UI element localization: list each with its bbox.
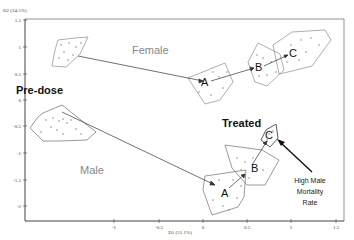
male-series-label: Male [80,164,104,176]
female-c-hull [273,30,331,74]
annotation-line-1: High Male [294,177,326,185]
y-tick-label: 1.5 [15,18,22,23]
x-tick-label: 0 [202,225,205,230]
y-tick-label: 0.5 [15,72,22,77]
x-axis-title: D1 (51.1%) [168,230,192,235]
male-b-label: B [251,162,258,174]
scatter-points [40,37,320,211]
x-tick-label: 1 [290,225,293,230]
cluster-hulls [30,30,331,215]
x-tick-label: 0.5 [244,225,251,230]
female-a-b-line [211,68,254,81]
treated-label: Treated [222,117,261,129]
arrowhead-icon [250,67,254,71]
y-tick-label: 1 [19,45,22,50]
x-tick-label: -0.5 [155,225,163,230]
annotation-line-3: Rate [303,199,318,206]
y-tick-label: -0.5 [13,124,21,129]
female-a-hull [188,63,233,104]
female-a-label: A [201,76,209,88]
annotation-line-2: Mortality [297,188,324,196]
female-predose-hull [52,37,88,67]
arrowhead-icon [284,55,288,58]
female-trajectory-line [78,56,203,81]
discriminant-plot: D2 (24.5%) 1.5 1 0.5 0 -0.5 -1 -1.5 -2 -… [0,0,354,240]
arrowhead-icon [210,181,215,185]
x-tick-label: 1.5 [333,225,340,230]
y-tick-label: -1 [17,151,22,156]
female-b-label: B [255,61,262,73]
predose-label: Pre-dose [16,84,63,96]
y-axis: D2 (24.5%) 1.5 1 0.5 0 -0.5 -1 -1.5 -2 [3,8,27,209]
mortality-annotation: High Male Mortality Rate [277,139,326,206]
y-tick-label: 0 [19,98,22,103]
female-c-label: C [289,47,297,59]
x-tick-label: -1 [112,225,117,230]
y-tick-label: -1.5 [13,178,21,183]
female-series-label: Female [132,44,169,56]
female-b-hull [248,43,284,86]
y-tick-label: -2 [17,204,22,209]
male-c-label: C [265,129,273,141]
male-a-label: A [221,187,229,199]
y-axis-title: D2 (24.5%) [3,8,27,13]
male-predose-hull [30,105,96,141]
